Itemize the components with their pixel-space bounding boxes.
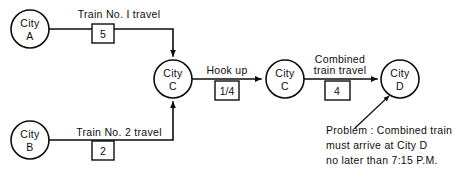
node-city-a[interactable]: City A (11, 10, 49, 48)
edge-a-to-c: Train No. I travel 5 (49, 8, 173, 56)
node-city-c-junction-label-line2: C (169, 80, 177, 92)
annotation-line-2: must arrive at City D (326, 139, 428, 151)
node-city-b-circle[interactable] (11, 121, 49, 159)
node-city-a-circle[interactable] (11, 10, 49, 48)
edge-b-to-c-duration-value: 2 (100, 145, 106, 157)
node-city-c-junction-label-line1: City (163, 67, 183, 79)
node-city-b-label-line1: City (20, 128, 40, 140)
edge-combined-travel: Combined train travel 4 (304, 53, 377, 100)
edge-a-to-c-duration-value: 5 (100, 28, 106, 40)
node-city-d-label-line2: D (396, 80, 404, 92)
node-city-b-label-line2: B (26, 141, 33, 153)
node-city-d-circle[interactable] (381, 60, 419, 98)
edge-combined-travel-label-line2: train travel (314, 64, 367, 76)
annotation-line-3: no later than 7:15 P.M. (326, 154, 438, 166)
edge-hookup-duration-value: 1/4 (220, 85, 235, 97)
node-city-a-label-line1: City (20, 17, 40, 29)
node-city-a-label-line2: A (26, 30, 33, 42)
node-city-c-hooked-label-line2: C (281, 80, 289, 92)
edge-b-to-c-label: Train No. 2 travel (76, 126, 162, 138)
annotation-note: Problem : Combined train must arrive at … (326, 96, 452, 166)
edge-hookup-label: Hook up (206, 64, 247, 76)
node-city-c-hooked-circle[interactable] (266, 60, 304, 98)
annotation-line-1: Problem : Combined train (326, 124, 452, 136)
edge-b-to-c: Train No. 2 travel 2 (49, 102, 173, 160)
node-city-b[interactable]: City B (11, 121, 49, 159)
network-diagram-canvas: Train No. I travel 5 Train No. 2 travel … (0, 0, 469, 178)
node-city-c-hooked-label-line1: City (275, 67, 295, 79)
edge-a-to-c-label: Train No. I travel (78, 8, 161, 20)
edge-combined-travel-duration-value: 4 (334, 85, 340, 97)
node-city-c-hooked[interactable]: City C (266, 60, 304, 98)
network-diagram-svg: Train No. I travel 5 Train No. 2 travel … (0, 0, 469, 178)
node-city-c-junction-circle[interactable] (154, 60, 192, 98)
node-city-d-label-line1: City (390, 67, 410, 79)
edge-hookup: Hook up 1/4 (192, 64, 261, 100)
node-city-c-junction[interactable]: City C (154, 60, 192, 98)
node-city-d[interactable]: City D (381, 60, 419, 98)
